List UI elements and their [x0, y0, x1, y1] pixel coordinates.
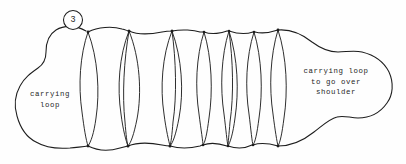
coil-loop-3-left-strand: [162, 31, 172, 146]
top-outline-edge: [88, 27, 278, 33]
coil-loop-2-right-strand: [128, 31, 140, 146]
coil-inner-strand-c: [228, 31, 233, 146]
coil-inner-strand-b: [170, 31, 176, 146]
coil-loop-5-left-strand: [222, 31, 229, 146]
coil-node-top-1: [87, 31, 90, 34]
figure-number-label: 3: [64, 14, 82, 27]
bottom-outline-edge: [88, 143, 278, 150]
coil-node-bottom-2: [127, 145, 130, 148]
coil-node-bottom-3: [169, 145, 172, 148]
coil-loop-6-left-strand: [247, 32, 254, 145]
coil-node-top-3: [171, 30, 174, 33]
coil-node-top-4: [203, 31, 206, 34]
left-carrying-loop-outline: [15, 26, 88, 148]
coil-node-bottom-4: [202, 144, 205, 147]
coil-node-top-2: [128, 30, 131, 33]
coil-node-bottom-1: [87, 145, 90, 148]
coil-loop-1-right-strand: [88, 32, 98, 146]
coil-node-bottom-5: [227, 145, 230, 148]
coil-loop-6-right-strand: [253, 32, 261, 145]
annotation-right-carrying-loop: carrying loopto go overshoulder: [288, 66, 384, 98]
annotation-left-line-1: carrying: [30, 90, 70, 98]
coil-inner-strand-a: [124, 31, 129, 146]
coil-loop-2-left-strand: [119, 31, 129, 146]
coil-node-bottom-6: [252, 144, 255, 147]
coil-node-top-6: [253, 31, 256, 34]
figure-root: 3 carryingloop carrying loopto go oversh…: [0, 0, 406, 164]
coil-loop-7-right-strand: [278, 30, 286, 146]
annotation-right-line-2: to go over: [311, 78, 361, 86]
annotation-right-line-1: carrying loop: [304, 67, 369, 75]
coil-loop-4-left-strand: [197, 32, 204, 145]
annotation-right-line-3: shoulder: [316, 88, 356, 96]
coil-loop-7-left-strand: [271, 30, 278, 146]
annotation-left-line-2: loop: [40, 101, 60, 109]
coil-node-top-5: [228, 30, 231, 33]
annotation-left-carrying-loop: carryingloop: [16, 89, 84, 110]
coil-node-top-7: [277, 29, 280, 32]
coil-loop-4-right-strand: [203, 32, 211, 145]
coil-node-bottom-7: [277, 145, 280, 148]
